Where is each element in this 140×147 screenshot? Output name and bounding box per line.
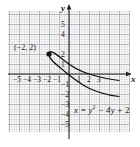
y-tick--2: −2 bbox=[61, 91, 69, 99]
y-tick--1: −1 bbox=[61, 81, 69, 89]
y-tick--4: −4 bbox=[61, 111, 69, 119]
y-tick-1: 1 bbox=[61, 61, 65, 69]
vertex-point-label: (−2, 2) bbox=[14, 44, 36, 52]
x-tick--3: −3 bbox=[33, 76, 41, 84]
y-axis-arrow-icon bbox=[67, 4, 72, 10]
y-tick--3: −3 bbox=[61, 101, 69, 109]
x-tick-3: 3 bbox=[97, 76, 101, 84]
equation-plus: + bbox=[117, 105, 122, 115]
equation-exponent: 2 bbox=[93, 104, 96, 110]
x-tick--4: −4 bbox=[23, 76, 31, 84]
y-tick-2: 2 bbox=[61, 51, 65, 59]
equation-eq-sign: = bbox=[81, 105, 86, 115]
equation-minus: − bbox=[98, 105, 103, 115]
y-tick-4: 4 bbox=[61, 31, 65, 39]
x-tick--2: −2 bbox=[43, 76, 51, 84]
x-tick--1: −1 bbox=[53, 76, 61, 84]
equation-constant: 2 bbox=[125, 105, 130, 115]
equation-label: x = y2 − 4y + 2 bbox=[74, 104, 130, 115]
x-tick-1: 1 bbox=[77, 76, 81, 84]
y-axis-label: y bbox=[61, 4, 65, 13]
y-tick--5: −5 bbox=[61, 121, 69, 129]
equation-coefficient-term: 4y bbox=[106, 105, 115, 115]
x-tick-2: 2 bbox=[87, 76, 91, 84]
x-axis-label: x bbox=[131, 75, 136, 84]
y-tick-5: 5 bbox=[61, 21, 65, 29]
x-tick--5: −5 bbox=[13, 76, 21, 84]
graph-figure: y x (−2, 2) x = y2 − 4y + 2 −5 −4 −3 −2 … bbox=[0, 0, 140, 147]
vertex-point-marker bbox=[46, 51, 51, 56]
axes-and-curve bbox=[0, 0, 140, 147]
